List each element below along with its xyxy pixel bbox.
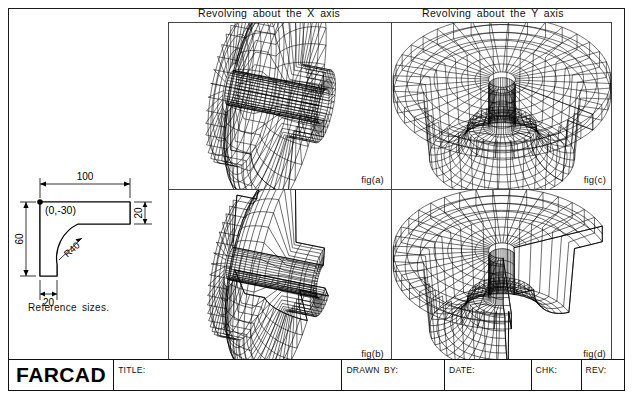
heading-revolve-x: Revolving about the X axis xyxy=(198,7,340,19)
title-block: FARCAD TITLE: DRAWN BY: DATE: CHK: REV: xyxy=(8,359,625,391)
figure-cell-d: fig(d) xyxy=(392,190,613,363)
figure-panel-grid: fig(a) fig(c) fig(b) fig(d) xyxy=(168,22,612,362)
field-chk[interactable]: CHK: xyxy=(532,360,582,390)
dim-60-text: 60 xyxy=(14,233,25,245)
company-logo: FARCAD xyxy=(9,360,114,390)
figure-b-label: fig(b) xyxy=(361,348,384,359)
field-rev-label: REV: xyxy=(586,365,607,375)
figure-cell-a: fig(a) xyxy=(169,23,391,189)
field-date[interactable]: DATE: xyxy=(445,360,532,390)
field-date-label: DATE: xyxy=(449,365,475,375)
dim-r40-text: R40 xyxy=(61,239,81,259)
drawing-sheet: Revolving about the X axis Revolving abo… xyxy=(0,0,632,399)
figure-b-svg xyxy=(169,190,391,363)
figure-a-label: fig(a) xyxy=(361,174,384,185)
origin-point xyxy=(37,199,43,205)
figure-cell-c: fig(c) xyxy=(392,23,613,189)
heading-revolve-y: Revolving about the Y axis xyxy=(422,7,564,19)
field-drawn-by[interactable]: DRAWN BY: xyxy=(342,360,445,390)
field-title-label: TITLE: xyxy=(118,365,145,375)
origin-coordinate-label: (0,-30) xyxy=(45,204,76,216)
figure-c-label: fig(c) xyxy=(584,174,606,185)
field-drawn-by-label: DRAWN BY: xyxy=(346,365,398,375)
field-rev[interactable]: REV: xyxy=(582,360,624,390)
figure-cell-b: fig(b) xyxy=(169,190,391,363)
field-chk-label: CHK: xyxy=(536,365,558,375)
reference-caption: Reference sizes. xyxy=(28,302,109,313)
figure-a-svg xyxy=(169,23,391,189)
dim-20-right-text: 20 xyxy=(133,207,144,219)
dim-100-text: 100 xyxy=(77,171,94,182)
company-logo-text: FARCAD xyxy=(16,363,106,387)
figure-c-svg xyxy=(392,23,613,189)
field-title[interactable]: TITLE: xyxy=(114,360,342,390)
figure-d-svg xyxy=(392,190,613,363)
reference-sketch-svg: 100 60 20 xyxy=(12,168,164,318)
figure-d-label: fig(d) xyxy=(583,348,606,359)
